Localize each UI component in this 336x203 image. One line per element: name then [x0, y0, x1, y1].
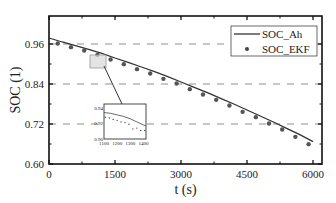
inset-soc-ekf-point	[120, 121, 121, 122]
y-axis-label: SOC (1)	[8, 66, 24, 113]
inset-soc-ekf-point	[136, 127, 137, 128]
inset-y-tick-label: 0.92	[94, 121, 103, 126]
y-tick-label: 0.84	[25, 78, 45, 90]
soc-ekf-point	[293, 135, 297, 139]
inset-soc-ekf-point	[124, 122, 125, 123]
soc-ekf-point	[240, 110, 244, 114]
legend-label-soc-ah: SOC_Ah	[262, 28, 303, 40]
inset-soc-ekf-point	[116, 120, 117, 121]
inset-frame	[104, 104, 146, 139]
zoom-region-box	[90, 55, 106, 68]
inset-soc-ekf-point	[105, 117, 106, 118]
soc-ekf-point	[214, 98, 218, 102]
inset-soc-ekf-point	[132, 128, 133, 129]
soc-ekf-point	[161, 77, 165, 81]
soc-ekf-point	[188, 87, 192, 91]
inset-x-tick-label: 1200	[112, 141, 123, 146]
x-tick-label: 3000	[170, 168, 193, 180]
y-tick-label: 0.96	[25, 38, 45, 50]
x-tick-label: 4500	[236, 168, 259, 180]
legend-dot-swatch	[245, 47, 249, 51]
inset-soc-ekf-point	[112, 119, 113, 120]
soc-ekf-point	[280, 127, 284, 131]
x-axis-label: t (s)	[174, 182, 197, 198]
inset-soc-ekf-point	[144, 130, 145, 131]
zoom-connector-line	[104, 66, 122, 104]
soc-ekf-point	[108, 57, 112, 61]
soc-chart: 015003000450060000.600.720.840.96t (s)SO…	[0, 0, 336, 203]
inset-x-tick-label: 1100	[99, 141, 109, 146]
soc-ekf-point	[82, 48, 86, 52]
x-tick-label: 1500	[104, 168, 127, 180]
y-tick-label: 0.72	[25, 118, 44, 130]
soc-ekf-point	[148, 71, 152, 75]
soc-ekf-point	[254, 115, 258, 119]
inset-x-tick-label: 1400	[138, 141, 149, 146]
soc-ekf-point	[306, 142, 310, 146]
inset-soc-ekf-point	[109, 117, 110, 118]
soc-ekf-point	[56, 41, 60, 45]
y-tick-label: 0.60	[25, 158, 45, 170]
soc-ekf-point	[227, 103, 231, 107]
inset-soc-ekf-point	[140, 130, 141, 131]
inset-y-tick-label: 0.94	[94, 106, 103, 111]
soc-ekf-point	[69, 45, 73, 49]
soc-ekf-point	[201, 92, 205, 96]
soc-ekf-point	[135, 67, 139, 71]
inset-x-tick-label: 1300	[125, 141, 136, 146]
chart-canvas: 015003000450060000.600.720.840.96t (s)SO…	[0, 0, 336, 203]
inset-soc-ekf-point	[128, 124, 129, 125]
legend: SOC_AhSOC_EKF	[231, 26, 317, 56]
legend-label-soc-ekf: SOC_EKF	[262, 43, 310, 55]
soc-ekf-point	[122, 62, 126, 66]
soc-ekf-point	[174, 81, 178, 85]
x-tick-label: 0	[46, 168, 52, 180]
x-tick-label: 6000	[302, 168, 325, 180]
soc-ekf-point	[267, 121, 271, 125]
